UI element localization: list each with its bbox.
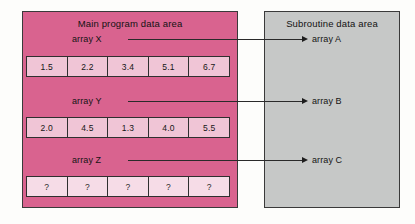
array-y-cell: 5.5	[189, 118, 229, 137]
array-a-label: array A	[312, 34, 341, 44]
array-z-label: array Z	[72, 155, 101, 165]
diagram-canvas: Main program data area array X array Y a…	[0, 0, 415, 224]
array-z-cell: ?	[68, 177, 109, 196]
connector-line-array-y-to-array-b	[128, 101, 304, 102]
array-x-label: array X	[72, 34, 102, 44]
array-b-label: array B	[312, 96, 342, 106]
array-z-cell: ?	[149, 177, 190, 196]
array-x-cell: 5.1	[149, 57, 190, 76]
arrow-right-icon	[302, 98, 308, 104]
array-z-cell: ?	[108, 177, 149, 196]
array-y-cell: 2.0	[27, 118, 68, 137]
array-z-cells: ? ? ? ? ?	[26, 176, 230, 197]
array-y-cell: 1.3	[108, 118, 149, 137]
array-x-cell: 1.5	[27, 57, 68, 76]
arrow-right-icon	[302, 36, 308, 42]
array-x-cell: 3.4	[108, 57, 149, 76]
array-y-label: array Y	[72, 96, 102, 106]
connector-line-array-z-to-array-c	[128, 160, 304, 161]
array-c-label: array C	[312, 155, 342, 165]
array-z-cell: ?	[27, 177, 68, 196]
subroutine-panel-title: Subroutine data area	[265, 18, 399, 29]
array-y-cells: 2.0 4.5 1.3 4.0 5.5	[26, 117, 230, 138]
connector-line-array-x-to-array-a	[128, 39, 304, 40]
array-x-cells: 1.5 2.2 3.4 5.1 6.7	[26, 56, 230, 77]
array-x-cell: 2.2	[68, 57, 109, 76]
array-y-cell: 4.5	[68, 118, 109, 137]
arrow-right-icon	[302, 157, 308, 163]
main-panel-title: Main program data area	[23, 18, 237, 29]
array-z-cell: ?	[189, 177, 229, 196]
array-y-cell: 4.0	[149, 118, 190, 137]
array-x-cell: 6.7	[189, 57, 229, 76]
